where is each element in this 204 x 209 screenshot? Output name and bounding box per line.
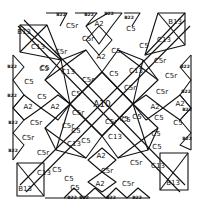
piece-label: C5r	[165, 72, 177, 80]
piece-label: B13	[17, 28, 31, 36]
piece-label: B22	[124, 15, 134, 20]
piece-label: B22	[67, 195, 77, 200]
piece-label: B22	[104, 11, 114, 16]
quilt-diagram: B13C13C5rC5C13C5rC5B22C5rC5rB22A2B22A2C5…	[0, 0, 204, 209]
piece-label: C5r	[22, 134, 34, 142]
piece-label: C5r	[37, 149, 49, 157]
piece-label: B22	[7, 93, 17, 98]
piece-label: A2	[96, 152, 105, 160]
piece-label: C5	[81, 137, 90, 145]
piece-label: B22	[79, 195, 89, 200]
piece-label: C5	[139, 42, 148, 50]
piece-label: C5r	[124, 84, 136, 92]
piece-label: B22	[7, 64, 17, 69]
piece-label: A2	[50, 103, 59, 111]
piece-label: B22	[182, 107, 192, 112]
piece-label: C5r	[66, 22, 78, 30]
piece-label: C5r	[156, 88, 168, 96]
piece-label: C5r	[30, 119, 42, 127]
piece-label: A2	[95, 180, 104, 188]
piece-label: A2	[96, 53, 105, 61]
piece-label: C5	[71, 127, 80, 135]
piece-label: C13	[157, 36, 171, 44]
piece-label: C13	[129, 67, 143, 75]
piece-label: C13	[31, 43, 45, 51]
piece-label: B22	[8, 120, 18, 125]
piece-label: A2	[150, 103, 159, 111]
piece-label: C5	[64, 175, 73, 183]
piece-label: C5r	[122, 180, 134, 188]
piece-labels: B13C13C5rC5C13C5rC5B22C5rC5rB22A2B22A2C5…	[7, 11, 192, 200]
piece-label: C5	[119, 115, 128, 123]
piece-label: C5	[37, 93, 46, 101]
piece-label: C5	[173, 119, 182, 127]
piece-label: C5	[71, 90, 80, 98]
piece-label: C5r	[154, 57, 166, 65]
piece-label: C5r	[82, 76, 94, 84]
piece-label: C13	[67, 140, 81, 148]
piece-label: B22	[180, 64, 190, 69]
piece-label: C5	[126, 25, 135, 33]
piece-label: B22	[132, 195, 142, 200]
piece-label: C13	[37, 169, 51, 177]
piece-label: B13	[18, 185, 32, 193]
piece-label: B22	[182, 136, 192, 141]
piece-label: C5	[132, 113, 141, 121]
piece-label: A2	[23, 103, 32, 111]
piece-label: C13	[61, 68, 75, 76]
piece-label: C5r	[72, 109, 84, 117]
piece-label: C5r	[82, 35, 94, 43]
piece-label: C13	[108, 133, 122, 141]
piece-label: C5	[24, 78, 33, 86]
piece-label: B13	[166, 179, 180, 187]
piece-label: B22	[84, 12, 94, 17]
piece-label: B13	[168, 18, 182, 26]
piece-label: C5	[111, 47, 120, 55]
piece-label: C5	[70, 184, 79, 192]
piece-label: C5	[109, 70, 118, 78]
piece-label: C5	[52, 166, 61, 174]
piece-label: C5r	[55, 48, 67, 56]
piece-label: B22	[8, 148, 18, 153]
piece-label: B22	[181, 89, 191, 94]
piece-label: A2	[94, 20, 103, 28]
piece-label: C5r	[105, 118, 117, 126]
center-label: A10	[93, 99, 111, 109]
piece-label: C5	[151, 130, 160, 138]
piece-label: C5r	[101, 167, 113, 175]
piece-label: C13	[151, 162, 165, 170]
piece-label: C5	[152, 143, 161, 151]
piece-label: C5r	[130, 159, 142, 167]
piece-label: B22	[106, 195, 116, 200]
piece-label: B22	[56, 12, 66, 17]
piece-label: C5	[154, 114, 163, 122]
quilt-block-svg: B13C13C5rC5C13C5rC5B22C5rC5rB22A2B22A2C5…	[0, 0, 204, 209]
piece-label: C5	[39, 65, 48, 73]
